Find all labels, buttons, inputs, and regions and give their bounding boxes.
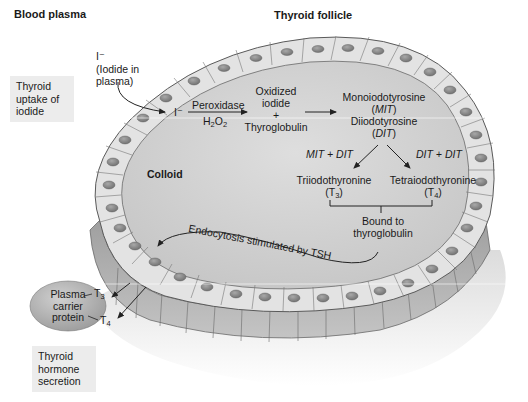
carrier-protein-label: Plasma carrier protein: [40, 289, 96, 324]
dit-plus-dit-label: DIT + DIT: [416, 148, 462, 160]
iodide-in-cell-label: I⁻: [174, 106, 183, 118]
mit-abbr: MIT: [375, 103, 393, 115]
mit-dit-block: Monoiodotyrosine (MIT) Diiodotyrosine (D…: [334, 91, 434, 139]
uptake-box: Thyroid uptake of iodide: [10, 76, 74, 122]
dit-abbr: DIT: [376, 127, 393, 139]
blood-plasma-title: Blood plasma: [14, 8, 86, 20]
mit-name: Monoiodotyrosine: [334, 91, 434, 103]
uptake-line2: uptake of: [16, 93, 68, 106]
iodide-ion-label: I⁻: [96, 50, 105, 62]
thyroid-follicle-title: Thyroid follicle: [274, 9, 352, 21]
secretion-line1: Thyroid: [38, 350, 90, 363]
uptake-line1: Thyroid: [16, 80, 68, 93]
t3-block: Triiodothyronine (T3): [292, 174, 376, 198]
peroxidase-label: Peroxidase: [192, 99, 245, 111]
t4-block: Tetraiodothyronine (T4): [388, 174, 478, 198]
iodide-desc-line1: (Iodide in: [96, 63, 139, 75]
iodide-desc-line2: plasma): [96, 75, 133, 87]
uptake-line3: iodide: [16, 105, 68, 118]
follicle-illustration: [0, 0, 528, 402]
carrier-t3-label: T3: [94, 287, 105, 299]
mit-plus-dit-label: MIT + DIT: [306, 148, 353, 160]
colloid-label: Colloid: [147, 168, 183, 180]
carrier-t4-label: T4: [100, 314, 111, 326]
bound-to-thyroglobulin: Bound to thyroglobulin: [346, 215, 420, 239]
thyroid-hormone-diagram: Blood plasma Thyroid follicle I⁻ (Iodide…: [0, 0, 528, 402]
t3-name: Triiodothyronine: [292, 174, 376, 186]
secretion-line2: hormone: [38, 363, 90, 376]
t4-name: Tetraiodothyronine: [388, 174, 478, 186]
h2o2-label: H2O2: [203, 115, 227, 127]
secretion-box: Thyroid hormone secretion: [32, 346, 96, 392]
oxidized-iodide-block: Oxidized iodide + Thyroglobulin: [243, 85, 309, 133]
dit-name: Diiodotyrosine: [334, 115, 434, 127]
secretion-line3: secretion: [38, 375, 90, 388]
